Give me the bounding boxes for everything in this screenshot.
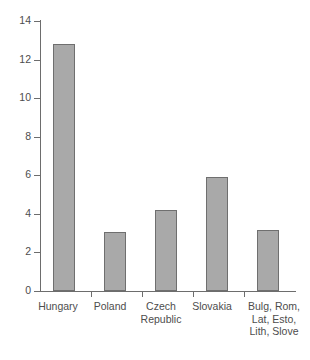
y-tick-label: 6	[25, 168, 31, 181]
y-tick-mark	[34, 137, 40, 138]
y-tick-mark	[34, 252, 40, 253]
y-tick-label: 14	[19, 14, 31, 27]
x-axis-line	[40, 291, 296, 292]
y-tick-label: 2	[25, 245, 31, 258]
x-tick-mark	[91, 291, 92, 297]
bar-poland	[104, 232, 126, 291]
bar-other-countries	[257, 230, 279, 291]
x-label-slovakia: Slovakia	[181, 300, 243, 313]
y-tick-label: 12	[19, 53, 31, 66]
y-tick-label: 8	[25, 130, 31, 143]
bar-slovakia	[206, 177, 228, 291]
y-tick-mark	[34, 214, 40, 215]
x-tick-mark	[193, 291, 194, 297]
y-tick-mark	[34, 291, 40, 292]
bar-hungary	[53, 44, 75, 291]
y-tick-label: 0	[25, 284, 31, 297]
y-tick-mark	[34, 98, 40, 99]
bar-chart: 0 2 4 6 8 10 12 14	[0, 0, 310, 360]
plot-area: 0 2 4 6 8 10 12 14	[40, 21, 295, 291]
bar-czech-republic	[155, 210, 177, 291]
y-tick-label: 10	[19, 91, 31, 104]
x-tick-mark	[244, 291, 245, 297]
x-tick-mark	[142, 291, 143, 297]
y-tick-label: 4	[25, 207, 31, 220]
x-label-other-countries: Bulg, Rom, Lat, Esto, Lith, Slove	[240, 300, 308, 338]
y-tick-mark	[34, 21, 40, 22]
x-label-hungary: Hungary	[28, 300, 88, 313]
y-tick-mark	[34, 175, 40, 176]
y-tick-mark	[34, 60, 40, 61]
